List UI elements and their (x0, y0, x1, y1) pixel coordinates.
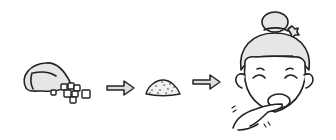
illustration (0, 0, 336, 140)
powder-pile-icon (146, 80, 180, 96)
girl-tasting-icon (232, 12, 313, 130)
arrow-right-icon (107, 81, 134, 95)
arrow-right-icon (193, 75, 220, 89)
